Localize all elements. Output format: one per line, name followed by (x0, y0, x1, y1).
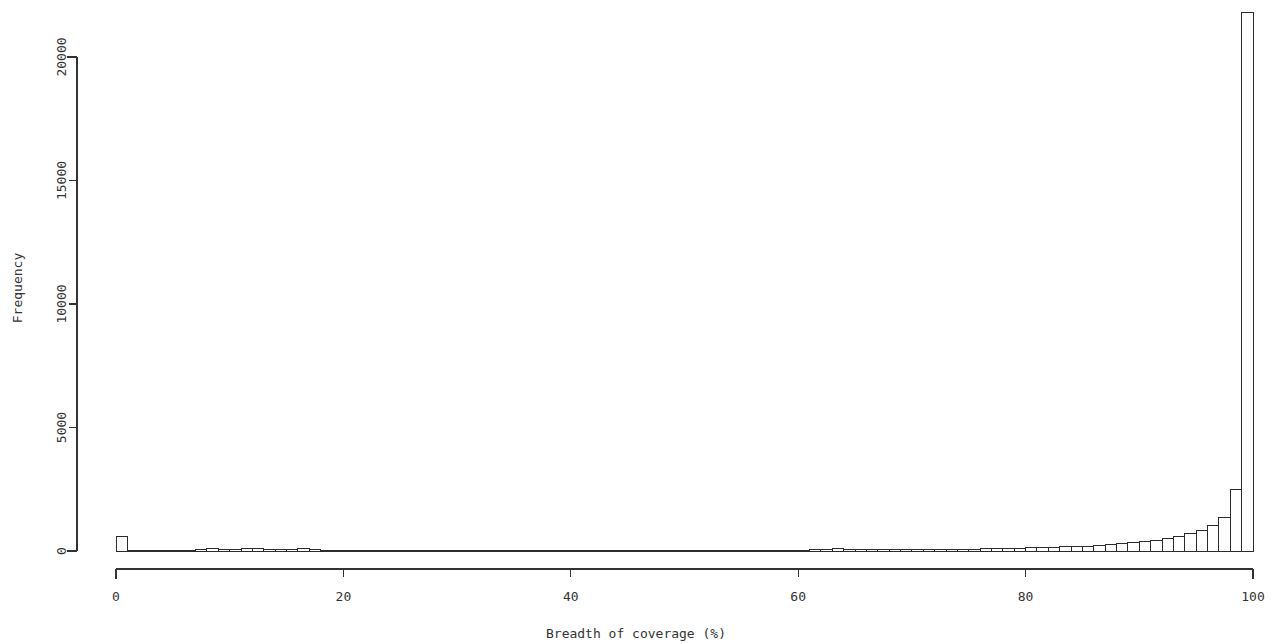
histogram-bar (673, 550, 684, 551)
histogram-bar (685, 550, 696, 551)
histogram-bar (707, 550, 718, 551)
histogram-bar (1003, 549, 1014, 551)
histogram-bar (844, 549, 855, 551)
histogram-bar (1162, 538, 1173, 551)
histogram-bar (1048, 547, 1059, 551)
histogram-bar (378, 550, 389, 551)
x-axis-tick-label: 0 (112, 589, 120, 604)
histogram-bar (491, 550, 502, 551)
histogram-bar (150, 550, 161, 551)
histogram-bar (1117, 544, 1128, 551)
histogram-bar (616, 550, 627, 551)
histogram-bar (639, 550, 650, 551)
histogram-bar (912, 549, 923, 551)
histogram-bar (298, 549, 309, 551)
x-axis-title: Breadth of coverage (%) (546, 626, 726, 641)
histogram-bar (400, 550, 411, 551)
histogram-bar (264, 549, 275, 551)
histogram-bar (548, 550, 559, 551)
histogram-bar (332, 550, 343, 551)
histogram-bar (798, 550, 809, 551)
histogram-bar (275, 550, 286, 551)
histogram-bars (116, 12, 1253, 551)
histogram-bar (1026, 548, 1037, 551)
histogram-bar (855, 549, 866, 551)
histogram-bar (889, 549, 900, 551)
histogram-bar (594, 550, 605, 551)
histogram-bar (1082, 546, 1093, 551)
histogram-bar (866, 549, 877, 551)
histogram-bar (901, 549, 912, 551)
y-axis-tick-label: 20000 (54, 37, 69, 76)
histogram-bar (1128, 543, 1139, 551)
histogram-bar (1037, 548, 1048, 551)
histogram-bar (1230, 490, 1241, 551)
x-axis-tick-label: 20 (336, 589, 352, 604)
histogram-bar (628, 550, 639, 551)
histogram-bar (946, 549, 957, 551)
histogram-bar (719, 550, 730, 551)
histogram-bar (366, 550, 377, 551)
histogram-bar (241, 549, 252, 551)
histogram-bar (412, 550, 423, 551)
x-axis-tick-label: 60 (790, 589, 806, 604)
histogram-bar (127, 550, 138, 551)
histogram-bar (582, 550, 593, 551)
histogram-bar (1151, 540, 1162, 551)
histogram-bar (991, 548, 1002, 551)
y-axis: 05000100001500020000 (54, 37, 78, 554)
histogram-bar (184, 550, 195, 551)
histogram-bar (1094, 545, 1105, 551)
histogram-bar (161, 550, 172, 551)
histogram-bar (1185, 534, 1196, 551)
histogram-bar (537, 550, 548, 551)
histogram-bar (969, 549, 980, 551)
histogram-bar (514, 550, 525, 551)
histogram-bar (1139, 542, 1150, 551)
histogram-bar (343, 550, 354, 551)
histogram-bar (139, 550, 150, 551)
histogram-bar (423, 550, 434, 551)
histogram-figure: 020406080100 05000100001500020000 Breadt… (0, 0, 1273, 644)
histogram-bar (321, 550, 332, 551)
x-axis-tick-label: 100 (1241, 589, 1264, 604)
histogram-bar (923, 549, 934, 551)
histogram-bar (878, 549, 889, 551)
histogram-bar (605, 550, 616, 551)
histogram-bar (116, 537, 127, 551)
x-axis: 020406080100 (112, 569, 1265, 604)
histogram-bar (957, 549, 968, 551)
histogram-bar (662, 550, 673, 551)
histogram-bar (764, 550, 775, 551)
histogram-bar (1196, 531, 1207, 552)
y-axis-tick-label: 15000 (54, 161, 69, 200)
histogram-bar (196, 550, 207, 551)
histogram-bar (468, 550, 479, 551)
histogram-bar (935, 549, 946, 551)
histogram-bar (741, 550, 752, 551)
y-axis-tick-label: 0 (54, 547, 69, 555)
histogram-bar (309, 550, 320, 551)
histogram-bar (389, 550, 400, 551)
histogram-bar (525, 550, 536, 551)
x-axis-tick-label: 80 (1018, 589, 1034, 604)
y-axis-tick-label: 10000 (54, 284, 69, 323)
x-axis-tick-label: 40 (563, 589, 579, 604)
histogram-bar (650, 550, 661, 551)
histogram-bar (821, 549, 832, 551)
histogram-bar (753, 550, 764, 551)
histogram-bar (1071, 546, 1082, 551)
histogram-bar (355, 550, 366, 551)
histogram-bar (571, 550, 582, 551)
histogram-bar (559, 550, 570, 551)
histogram-bar (787, 550, 798, 551)
histogram-bar (218, 549, 229, 551)
histogram-bar (287, 550, 298, 551)
histogram-bar (252, 549, 263, 551)
histogram-bar (230, 549, 241, 551)
histogram-bar (1105, 545, 1116, 551)
histogram-bar (173, 550, 184, 551)
histogram-bar (775, 550, 786, 551)
histogram-bar (457, 550, 468, 551)
histogram-bar (832, 549, 843, 551)
